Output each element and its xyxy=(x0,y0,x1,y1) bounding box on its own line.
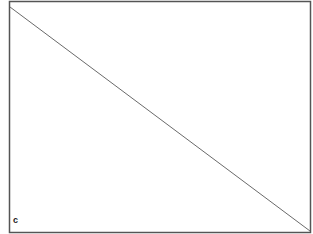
panel-label: c xyxy=(13,215,18,225)
plot-area xyxy=(0,0,313,234)
